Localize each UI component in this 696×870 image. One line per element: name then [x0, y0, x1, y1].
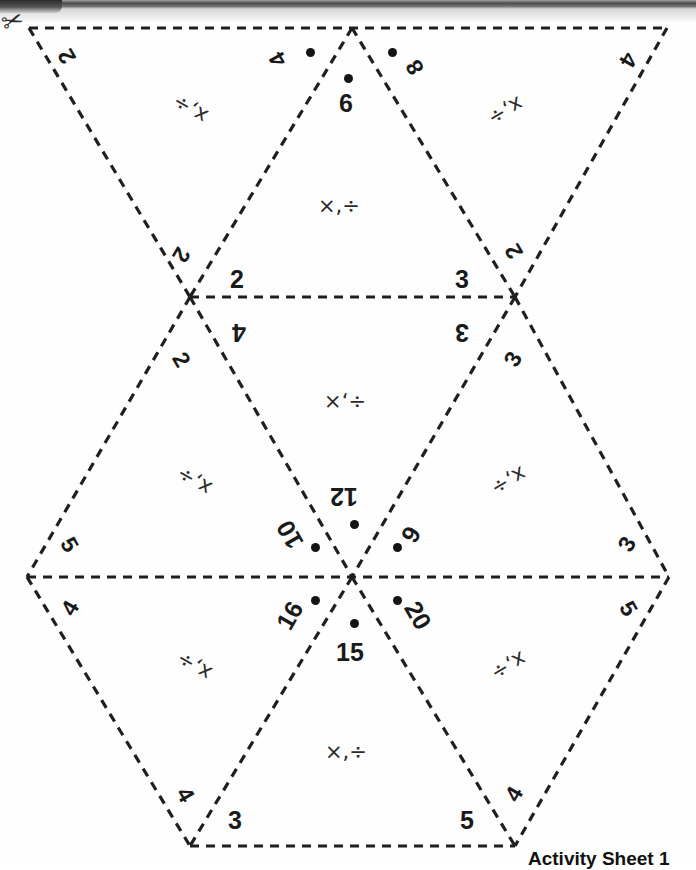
- vertex-number: 5: [460, 808, 474, 833]
- vertex-number: 2: [230, 267, 244, 292]
- triangle-ops: ×,÷: [325, 742, 367, 763]
- net-edge-m-right-in: [352, 297, 515, 577]
- vertex-number: 4: [232, 320, 246, 345]
- vertex-number: 3: [455, 267, 469, 292]
- hub-dot-12: [350, 520, 359, 529]
- vertex-dot: [306, 48, 315, 57]
- vertex-dot: [388, 48, 397, 57]
- triangle-ops: ÷,×: [324, 391, 366, 412]
- net-edge-m-left-out: [27, 297, 190, 577]
- net-edge-t2-right: [352, 28, 515, 297]
- net-edge-m-left-in: [190, 297, 352, 577]
- net-edge-b-left-out: [27, 577, 190, 846]
- vertex-number: 3: [228, 808, 242, 833]
- sheet-footer-label: Activity Sheet 1: [528, 848, 670, 870]
- net-edge-t3-right: [515, 28, 667, 297]
- triangle-ops: ×,÷: [318, 196, 360, 217]
- hub-dot-6: [393, 543, 402, 552]
- net-edge-b-right-out: [515, 577, 669, 846]
- vertex-number: 3: [455, 320, 469, 345]
- hub-dot-15: [350, 619, 359, 628]
- hub-dot-20: [393, 596, 402, 605]
- vertex-dot: [344, 74, 353, 83]
- vertex-number: 6: [339, 91, 353, 116]
- net-edge-t1-left: [29, 28, 190, 297]
- hub-dot-16: [311, 596, 320, 605]
- hub-dot-10: [311, 543, 320, 552]
- hub-number-12: 12: [330, 484, 358, 509]
- net-edge-m-right-out: [515, 297, 669, 577]
- hub-number-15: 15: [336, 640, 364, 665]
